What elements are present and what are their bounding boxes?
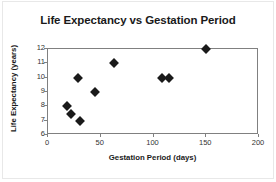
x-tick-label: 100 <box>138 139 168 147</box>
x-tick-mark <box>205 134 206 137</box>
x-axis-tick-marks <box>0 134 276 138</box>
scatter-point <box>164 73 174 83</box>
scatter-point <box>73 73 83 83</box>
scatter-point <box>75 116 85 126</box>
y-tick-label: 11 <box>31 59 45 67</box>
scatter-point <box>91 87 101 97</box>
y-tick-label: 9 <box>31 87 45 95</box>
y-tick-label: 12 <box>31 44 45 52</box>
x-tick-label: 0 <box>32 139 62 147</box>
x-tick-mark <box>153 134 154 137</box>
x-tick-label: 200 <box>243 139 273 147</box>
y-tick-label: 10 <box>31 73 45 81</box>
chart-figure: Life Expectancy vs Gestation Period Life… <box>0 0 276 182</box>
y-axis-tick-labels: 6789101112 <box>29 0 45 182</box>
x-tick-mark <box>100 134 101 137</box>
y-tick-label: 8 <box>31 102 45 110</box>
x-tick-label: 50 <box>85 139 115 147</box>
x-tick-mark <box>258 134 259 137</box>
x-axis-title: Gestation Period (days) <box>47 153 258 162</box>
x-tick-mark <box>47 134 48 137</box>
x-tick-label: 150 <box>190 139 220 147</box>
scatter-point <box>110 58 120 68</box>
y-axis-title: Life Expectancy (years) <box>9 29 18 149</box>
plot-area <box>47 48 258 134</box>
x-axis-tick-labels: 050100150200 <box>0 139 276 151</box>
y-tick-label: 7 <box>31 116 45 124</box>
